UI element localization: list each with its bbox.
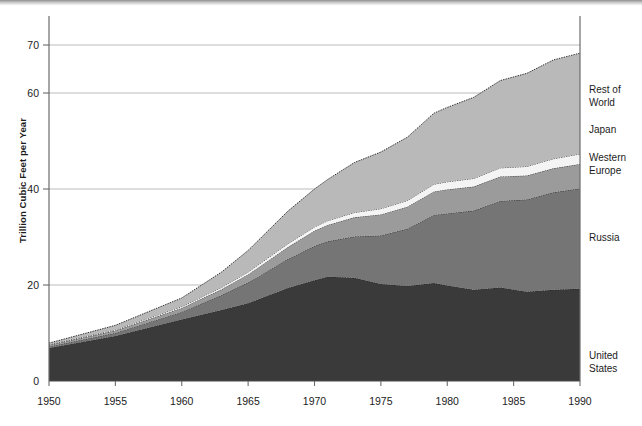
legend-label-rest-of-world: Rest of World bbox=[589, 84, 621, 109]
x-tick-label: 1950 bbox=[29, 396, 69, 407]
x-tick-label: 1965 bbox=[228, 396, 268, 407]
y-tick-label: 20 bbox=[13, 280, 39, 290]
y-tick-label: 70 bbox=[13, 40, 39, 50]
x-tick-label: 1970 bbox=[295, 396, 335, 407]
legend-label-japan: Japan bbox=[589, 124, 616, 137]
x-tick-label: 1990 bbox=[560, 396, 600, 407]
legend-label-western-europe: Western Europe bbox=[589, 152, 626, 177]
legend-label-united-states: United States bbox=[589, 350, 618, 375]
x-tick-label: 1980 bbox=[427, 396, 467, 407]
y-tick-label: 40 bbox=[13, 184, 39, 194]
chart-canvas: Trillion Cubic Feet per Year 020406070 1… bbox=[0, 0, 642, 426]
y-tick-label: 60 bbox=[13, 88, 39, 98]
x-tick-label: 1975 bbox=[361, 396, 401, 407]
x-tick-label: 1955 bbox=[95, 396, 135, 407]
x-tick-label: 1985 bbox=[494, 396, 534, 407]
stacked-area-plot bbox=[0, 0, 642, 426]
legend-label-russia: Russia bbox=[589, 232, 620, 245]
x-tick-label: 1960 bbox=[162, 396, 202, 407]
y-tick-label: 0 bbox=[13, 376, 39, 386]
